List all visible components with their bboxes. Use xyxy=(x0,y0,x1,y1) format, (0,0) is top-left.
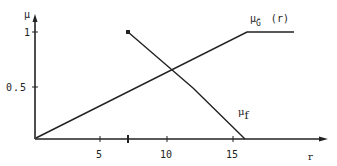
x-tick-label-5: 5 xyxy=(96,149,102,160)
x-tick-label-10: 10 xyxy=(160,149,172,160)
membership-chart: μ r 1 0.5 5 10 15 μG̃(r) μf xyxy=(0,0,337,166)
mu-g-label: μG̃(r) xyxy=(250,13,289,28)
x-tick-label-15: 15 xyxy=(226,149,238,160)
series-mu-f xyxy=(128,32,245,139)
y-tick-label-05: 0.5 xyxy=(6,82,27,93)
mu-f-label: μf xyxy=(238,106,250,122)
y-axis-label: μ xyxy=(24,9,30,20)
y-tick-label-1: 1 xyxy=(24,27,30,38)
mu-f-start-marker xyxy=(126,30,130,34)
x-axis-label: r xyxy=(308,151,313,162)
x-axis-arrow-icon xyxy=(319,137,328,142)
series-mu-g xyxy=(36,32,294,138)
y-axis-arrow-icon xyxy=(33,14,38,22)
